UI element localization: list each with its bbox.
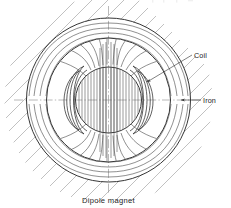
- iron-label: Iron: [203, 96, 216, 105]
- dipole-magnet-diagram: Coil Iron Dipole magnet: [0, 0, 231, 208]
- cropped-text-artifact: [152, 0, 193, 3]
- figure-caption: Dipole magnet: [82, 196, 135, 205]
- iron-annotation: Iron: [181, 96, 216, 105]
- centre-axes: [14, 6, 203, 194]
- coil-label: Coil: [194, 51, 207, 60]
- dipole-magnet-figure: Coil Iron Dipole magnet: [0, 0, 231, 208]
